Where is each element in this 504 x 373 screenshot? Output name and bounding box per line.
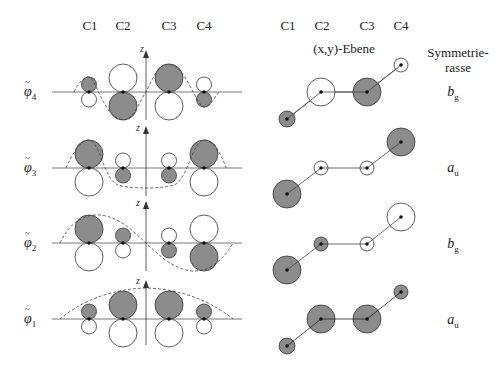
z-axis-label-phi2: z xyxy=(135,197,140,208)
z-axis-label-phi4: z xyxy=(139,43,144,54)
projection-phi1 xyxy=(279,285,408,354)
lobes-phi1 xyxy=(52,280,242,347)
projection-phi2 xyxy=(273,203,415,284)
lobes-phi4 xyxy=(52,50,242,120)
z-axis-label-phi1: z xyxy=(135,275,140,286)
projection-phi3 xyxy=(273,128,415,208)
lobes-phi3 xyxy=(52,126,242,196)
lobes-phi2 xyxy=(52,201,242,271)
orbital-diagram: z z z xyxy=(0,0,504,373)
projection-phi4 xyxy=(279,58,408,127)
z-axis-label-phi3: z xyxy=(135,122,140,133)
